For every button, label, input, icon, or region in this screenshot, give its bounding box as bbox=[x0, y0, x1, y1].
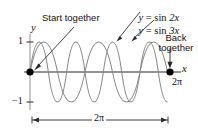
domain-span-left-arrowhead bbox=[33, 117, 39, 122]
back-together-arrowhead bbox=[167, 62, 172, 69]
sine-comparison-figure: y = sin 2x y = sin 3x Start together Bac… bbox=[0, 0, 198, 138]
start-together-arrowhead bbox=[34, 63, 41, 70]
origin-marker-dot bbox=[26, 68, 33, 75]
y-tick-label-one: 1 bbox=[18, 36, 23, 47]
two-pi-marker-dot bbox=[166, 68, 173, 75]
start-together-label: Start together bbox=[42, 13, 100, 23]
curve-label-sin3x-eq: = bbox=[146, 25, 152, 36]
x-axis-label: x bbox=[182, 63, 187, 74]
back-together-label: Backtogether bbox=[157, 33, 195, 53]
domain-span-right-arrowhead bbox=[161, 117, 167, 122]
x-tick-label-two-pi: 2π bbox=[172, 77, 182, 88]
sin2x-arrowhead bbox=[117, 36, 123, 41]
y-axis-label: y bbox=[31, 22, 36, 33]
domain-span-label: 2π bbox=[92, 113, 106, 124]
y-tick-label-negative-one: −1 bbox=[12, 96, 23, 107]
